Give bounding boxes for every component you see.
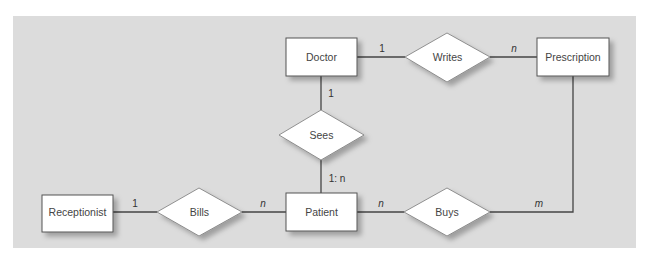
entity-receptionist-label: Receptionist: [49, 206, 107, 218]
relationship-bills[interactable]: Bills: [157, 188, 242, 236]
relationship-writes[interactable]: Writes: [405, 33, 490, 82]
entity-doctor[interactable]: Doctor: [286, 38, 357, 76]
relationship-sees[interactable]: Sees: [279, 110, 364, 160]
entity-patient-label: Patient: [305, 206, 338, 218]
cardinality-doctor-sees: 1: [328, 88, 334, 99]
cardinality-doctor-writes: 1: [379, 43, 385, 54]
relationship-buys[interactable]: Buys: [404, 188, 490, 236]
cardinality-patient-buys: n: [378, 198, 384, 209]
relationship-sees-label: Sees: [310, 129, 334, 141]
er-diagram: Doctor Prescription Receptionist Patient…: [0, 0, 648, 259]
cardinality-sees-patient: 1: n: [329, 173, 346, 184]
relationship-bills-label: Bills: [190, 206, 209, 218]
cardinality-writes-prescription: n: [511, 43, 517, 54]
cardinality-receptionist-bills: 1: [132, 198, 138, 209]
entity-prescription-label: Prescription: [545, 51, 601, 63]
entity-prescription[interactable]: Prescription: [537, 38, 609, 76]
relationship-buys-label: Buys: [435, 206, 458, 218]
line-buys-prescription: [490, 76, 573, 212]
entity-patient[interactable]: Patient: [286, 193, 357, 231]
cardinality-buys-prescription: m: [535, 198, 543, 209]
entity-receptionist[interactable]: Receptionist: [42, 195, 113, 232]
entity-doctor-label: Doctor: [306, 51, 337, 63]
cardinality-bills-patient: n: [260, 198, 266, 209]
relationship-writes-label: Writes: [433, 51, 463, 63]
